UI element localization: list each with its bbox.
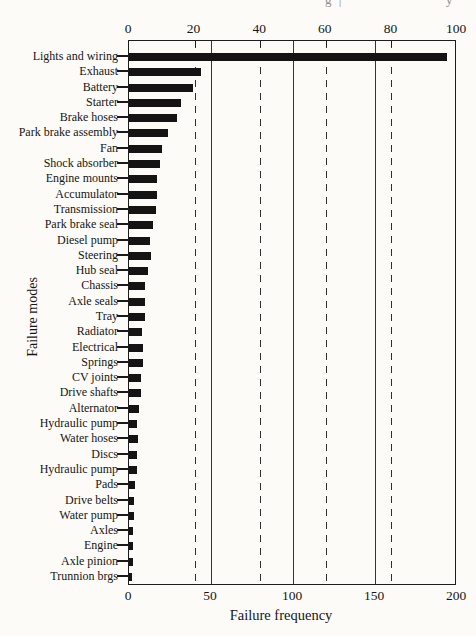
- bar: [129, 84, 193, 92]
- bar: [129, 145, 162, 153]
- top-axis-tick: [326, 41, 327, 47]
- bar: [129, 374, 141, 382]
- bar: [129, 573, 132, 581]
- bar: [129, 298, 145, 306]
- category-label: Pads: [95, 478, 118, 490]
- category-label: Trunnion brgs: [50, 570, 118, 582]
- category-tick: [117, 315, 128, 317]
- category-tick: [117, 193, 128, 195]
- category-label: Park brake assembly: [19, 126, 118, 138]
- top-axis-tick: [195, 41, 196, 47]
- category-label: Tray: [96, 310, 118, 322]
- category-label: Axle pinion: [61, 555, 118, 567]
- top-axis-tick-label: 40: [252, 22, 266, 36]
- category-label: Axle seals: [68, 295, 118, 307]
- bar: [129, 405, 139, 413]
- top-axis-tick-label: 20: [187, 22, 201, 36]
- category-tick: [117, 177, 128, 179]
- bar: [129, 99, 181, 107]
- category-tick: [117, 284, 128, 286]
- category-label: Hydraulic pump: [40, 417, 118, 429]
- category-label: Water hoses: [60, 432, 118, 444]
- cropped-text-artifact: y: [446, 0, 455, 8]
- category-tick: [117, 529, 128, 531]
- bottom-axis-tick-label: 200: [446, 589, 466, 603]
- category-tick: [117, 330, 128, 332]
- category-tick: [117, 70, 128, 72]
- category-tick: [117, 499, 128, 501]
- bar: [129, 267, 148, 275]
- category-label: Chassis: [81, 279, 118, 291]
- category-label: Transmission: [54, 203, 118, 215]
- category-tick: [117, 483, 128, 485]
- category-tick: [117, 376, 128, 378]
- category-tick: [117, 422, 128, 424]
- bar: [129, 191, 157, 199]
- category-label: Discs: [91, 448, 118, 460]
- category-label: Park brake seal: [45, 218, 118, 230]
- bar: [129, 328, 142, 336]
- top-axis-tick: [391, 41, 392, 47]
- bar: [129, 344, 143, 352]
- gridline-dashed: [326, 41, 327, 584]
- category-label: Brake hoses: [60, 111, 118, 123]
- gridline-dashed: [260, 41, 261, 584]
- category-tick: [117, 208, 128, 210]
- category-tick: [117, 254, 128, 256]
- category-tick: [117, 86, 128, 88]
- x-axis-title: Failure frequency: [230, 607, 333, 624]
- bar: [129, 558, 133, 566]
- category-label: Fan: [100, 142, 118, 154]
- top-axis-tick-label: 80: [384, 22, 398, 36]
- category-label: Springs: [81, 356, 118, 368]
- category-tick: [117, 391, 128, 393]
- bar: [129, 481, 135, 489]
- category-label: Shock absorber: [44, 157, 118, 169]
- bottom-axis-tick-label: 0: [125, 589, 132, 603]
- category-label: Water pump: [59, 509, 118, 521]
- category-tick: [117, 116, 128, 118]
- bar: [129, 53, 447, 61]
- bar: [129, 206, 156, 214]
- bottom-axis-tick-label: 50: [203, 589, 217, 603]
- category-label: Accumulator: [55, 188, 118, 200]
- bottom-axis-tick-label: 150: [364, 589, 384, 603]
- category-label: Drive shafts: [60, 386, 118, 398]
- page: g | y Failure modes Failure frequency Li…: [0, 0, 476, 636]
- bar: [129, 389, 141, 397]
- bar: [129, 497, 134, 505]
- category-label: Engine mounts: [46, 172, 118, 184]
- bar: [129, 114, 177, 122]
- category-tick: [117, 223, 128, 225]
- category-label: Radiator: [77, 325, 118, 337]
- category-tick: [117, 560, 128, 562]
- category-tick: [117, 101, 128, 103]
- category-tick: [117, 361, 128, 363]
- bar: [129, 435, 138, 443]
- category-label: Lights and wiring: [33, 50, 118, 62]
- category-label: Electrical: [72, 341, 118, 353]
- top-axis-tick: [260, 41, 261, 47]
- plot-area: [128, 40, 456, 585]
- category-tick: [117, 575, 128, 577]
- bar: [129, 359, 143, 367]
- category-label: Axles: [90, 524, 118, 536]
- bottom-axis-tick-label: 100: [282, 589, 302, 603]
- category-label: Exhaust: [79, 65, 118, 77]
- bar: [129, 129, 168, 137]
- bar: [129, 451, 137, 459]
- category-label: Engine: [84, 539, 118, 551]
- gridline-dashed: [391, 41, 392, 584]
- category-tick: [117, 269, 128, 271]
- category-tick: [117, 544, 128, 546]
- category-label: Steering: [78, 249, 118, 261]
- category-label: Drive belts: [65, 494, 118, 506]
- category-label: Hub seal: [76, 264, 118, 276]
- category-label: CV joints: [72, 371, 118, 383]
- category-tick: [117, 437, 128, 439]
- top-axis-tick-label: 60: [318, 22, 332, 36]
- category-label: Diesel pump: [57, 234, 118, 246]
- category-label: Battery: [83, 81, 118, 93]
- category-tick: [117, 300, 128, 302]
- gridline-solid: [375, 41, 376, 584]
